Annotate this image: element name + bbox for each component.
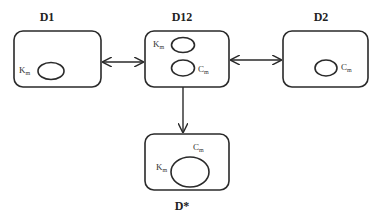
node-d1: D1 Km <box>14 10 101 87</box>
node-d12: D12 Km Cm <box>145 10 229 87</box>
node-d2: D2 Cm <box>283 10 368 87</box>
node-d2-title: D2 <box>314 10 329 24</box>
diagram-canvas: D1 Km D12 Km Cm D2 Cm Cm Km D* <box>0 0 381 215</box>
node-d12-title: D12 <box>172 10 193 24</box>
node-d2-box <box>283 31 368 87</box>
node-d1-title: D1 <box>40 10 55 24</box>
node-dstar-title: D* <box>175 199 190 213</box>
node-dstar: Cm Km D* <box>145 134 229 213</box>
